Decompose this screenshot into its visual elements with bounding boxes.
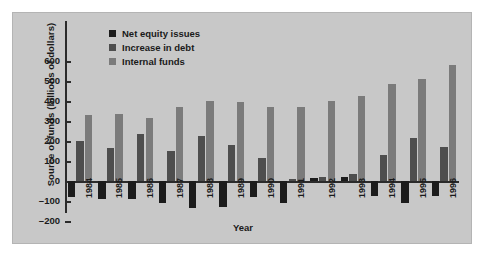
bar-net-equity-issues [371, 181, 378, 196]
x-axis-tick-label: 1984 [84, 178, 94, 198]
bar-internal-funds [85, 115, 92, 181]
bar-increase-in-debt [198, 136, 205, 181]
bar-internal-funds [146, 118, 153, 181]
x-axis-tick-label: 1996 [448, 178, 458, 198]
plot-area: –200–10001002003004005006001984198519861… [65, 21, 459, 213]
y-axis-tick-label: 400 [44, 95, 60, 106]
x-axis-tick-label: 1995 [418, 178, 428, 198]
bar-net-equity-issues [280, 181, 287, 203]
y-axis-tick-label: 200 [44, 135, 60, 146]
bar-group: 1996 [429, 21, 459, 213]
bar-net-equity-issues [68, 181, 75, 197]
bar-internal-funds [237, 102, 244, 181]
bar-increase-in-debt [167, 151, 174, 181]
bar-increase-in-debt [440, 147, 447, 181]
bar-internal-funds [267, 107, 274, 181]
bar-group: 1995 [398, 21, 428, 213]
chart-figure: Source of funds (billions of dollars) Ne… [12, 12, 472, 244]
bar-increase-in-debt [319, 177, 326, 181]
bar-internal-funds [388, 84, 395, 181]
x-axis-tick-label: 1988 [205, 178, 215, 198]
bar-group: 1994 [368, 21, 398, 213]
bar-internal-funds [449, 65, 456, 181]
bar-increase-in-debt [107, 148, 114, 181]
y-axis-tick-label: 0 [55, 175, 60, 186]
x-axis-tick-label: 1986 [145, 178, 155, 198]
y-axis-tick-label: 100 [44, 155, 60, 166]
x-axis-tick-label: 1987 [175, 178, 185, 198]
bar-increase-in-debt [349, 174, 356, 181]
x-axis-tick-label: 1992 [327, 178, 337, 198]
bar-internal-funds [297, 107, 304, 181]
bar-internal-funds [115, 114, 122, 181]
bar-net-equity-issues [432, 181, 439, 196]
bar-net-equity-issues [310, 178, 317, 181]
bar-group: 1990 [247, 21, 277, 213]
x-axis-tick-label: 1990 [266, 178, 276, 198]
bar-group: 1989 [217, 21, 247, 213]
bar-group: 1984 [65, 21, 95, 213]
x-axis-tick-label: 1993 [357, 178, 367, 198]
y-axis-tick-label: 300 [44, 115, 60, 126]
bar-group: 1986 [126, 21, 156, 213]
x-axis-title: Year [13, 222, 473, 233]
bar-group: 1987 [156, 21, 186, 213]
bar-increase-in-debt [258, 158, 265, 181]
bar-internal-funds [358, 96, 365, 181]
bar-group: 1993 [338, 21, 368, 213]
bar-internal-funds [328, 101, 335, 181]
bar-group: 1992 [307, 21, 337, 213]
bar-group: 1985 [95, 21, 125, 213]
x-axis-tick-label: 1989 [236, 178, 246, 198]
bar-increase-in-debt [76, 141, 83, 181]
bar-net-equity-issues [189, 181, 196, 208]
bar-internal-funds [176, 107, 183, 181]
bar-increase-in-debt [228, 145, 235, 181]
x-axis-tick-label: 1994 [387, 178, 397, 198]
bar-group: 1991 [277, 21, 307, 213]
bar-net-equity-issues [98, 181, 105, 199]
bar-group: 1988 [186, 21, 216, 213]
y-axis-tick-label: 500 [44, 75, 60, 86]
x-axis-tick-label: 1985 [114, 178, 124, 198]
bar-net-equity-issues [401, 181, 408, 203]
bar-net-equity-issues [128, 181, 135, 199]
bar-internal-funds [418, 79, 425, 181]
bar-net-equity-issues [219, 181, 226, 207]
y-axis-tick-label: –100 [39, 195, 60, 206]
x-axis-tick-label: 1991 [296, 178, 306, 198]
bar-increase-in-debt [380, 155, 387, 181]
bar-increase-in-debt [137, 134, 144, 181]
bar-net-equity-issues [250, 181, 257, 197]
bar-net-equity-issues [341, 177, 348, 181]
bar-internal-funds [206, 101, 213, 181]
bar-net-equity-issues [159, 181, 166, 203]
bar-increase-in-debt [410, 138, 417, 181]
y-axis-tick-label: 600 [44, 55, 60, 66]
bar-increase-in-debt [289, 179, 296, 181]
